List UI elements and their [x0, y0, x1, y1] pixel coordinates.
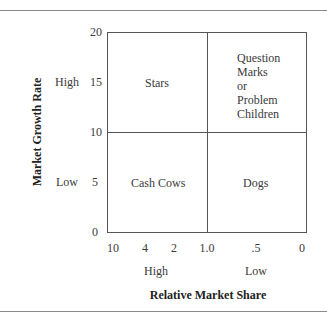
- quadrant-question-marks-line: Marks: [237, 65, 280, 79]
- quadrant-question-marks-line: Problem: [237, 93, 280, 107]
- y-tick-20: 20: [82, 25, 102, 40]
- y-axis-title: Market Growth Rate: [30, 78, 45, 186]
- y-level-high: High: [55, 75, 79, 90]
- quadrant-question-marks-line: Children: [237, 107, 280, 121]
- y-tick-15: 15: [82, 75, 102, 90]
- x-tick-0: 0: [299, 241, 305, 256]
- x-axis-title: Relative Market Share: [150, 288, 266, 303]
- quadrant-cash-cows: Cash Cows: [131, 176, 185, 190]
- x-tick-10: 10: [107, 241, 119, 256]
- quadrant-question-marks-line: or: [237, 79, 280, 93]
- y-tick-0: 0: [78, 225, 98, 240]
- top-rule: [0, 10, 327, 11]
- bottom-rule: [0, 311, 327, 312]
- quadrant-dogs: Dogs: [243, 176, 268, 190]
- x-tick-1-0: 1.0: [200, 241, 215, 256]
- y-level-low: Low: [56, 175, 78, 190]
- matrix-horizontal-divider: [107, 132, 307, 133]
- x-level-low: Low: [245, 264, 267, 279]
- x-tick-0-5: .5: [252, 241, 261, 256]
- quadrant-question-marks-line: Question: [237, 51, 280, 65]
- x-tick-4: 4: [142, 241, 148, 256]
- y-tick-5: 5: [78, 175, 98, 190]
- x-level-high: High: [144, 264, 168, 279]
- quadrant-stars: Stars: [145, 76, 169, 90]
- y-tick-10: 10: [82, 125, 102, 140]
- quadrant-question-marks: Question Marks or Problem Children: [237, 51, 280, 121]
- x-tick-2: 2: [171, 241, 177, 256]
